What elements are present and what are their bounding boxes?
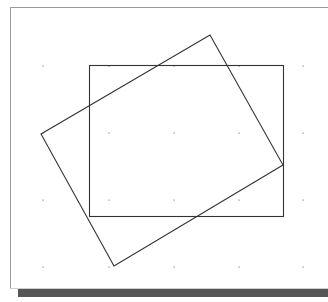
- grid-dot: [303, 267, 304, 268]
- grid-dot: [239, 133, 240, 134]
- grid-dot: [239, 267, 240, 268]
- grid-dot: [303, 200, 304, 201]
- grid-dot: [43, 267, 44, 268]
- grid-dot: [303, 133, 304, 134]
- frame-drop-shadow: [18, 289, 328, 297]
- grid-dot: [109, 200, 110, 201]
- grid-dot: [239, 200, 240, 201]
- grid-dot: [109, 267, 110, 268]
- grid-dot: [174, 200, 175, 201]
- grid-dot: [109, 133, 110, 134]
- drawing-canvas[interactable]: [0, 0, 328, 302]
- grid-dot: [303, 66, 304, 67]
- grid-dot: [43, 200, 44, 201]
- grid-dot: [174, 133, 175, 134]
- drawing-frame: [10, 7, 328, 288]
- grid-dot: [43, 66, 44, 67]
- drawing-surface[interactable]: [0, 0, 328, 302]
- grid-dot: [174, 267, 175, 268]
